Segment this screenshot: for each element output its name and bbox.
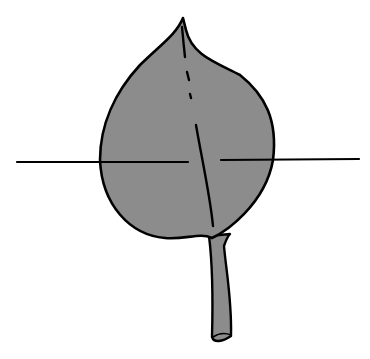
leaf-diagram <box>0 0 370 359</box>
leaf-blade <box>100 18 274 238</box>
petiole <box>209 234 231 341</box>
